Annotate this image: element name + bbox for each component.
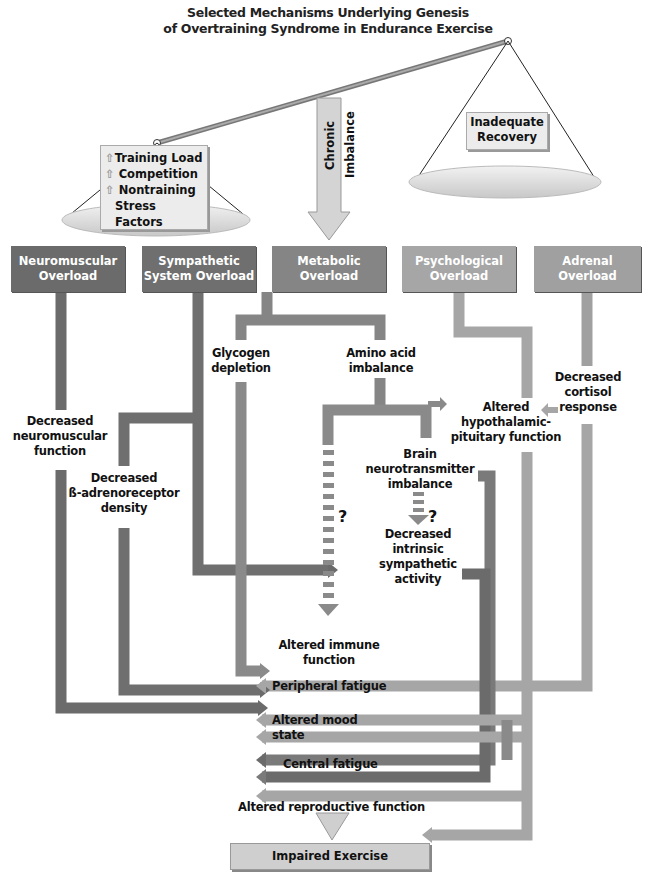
diagram-title: Selected Mechanisms Underlying Genesis o…	[0, 5, 656, 37]
final-outcome-box: Impaired Exercise Performance	[230, 843, 430, 870]
header-neuromuscular: NeuromuscularOverload	[11, 246, 125, 292]
question-mark: ?	[338, 507, 347, 526]
stressor-item: ⇧ Nontraining	[105, 182, 205, 198]
outcome-central-fatigue: Central fatigue	[283, 757, 393, 772]
header-psychological: PsychologicalOverload	[402, 246, 516, 292]
node-beta-receptor: Decreasedß-adrenoreceptordensity	[66, 471, 182, 516]
header-metabolic: MetabolicOverload	[272, 246, 386, 292]
node-amino-acid: Amino acidimbalance	[336, 346, 426, 376]
header-adrenal: AdrenalOverload	[534, 246, 641, 292]
node-hpa: Alteredhypothalamic-pituitary function	[446, 400, 566, 445]
outcome-reproductive: Altered reproductive function	[238, 800, 428, 815]
chronic-imbalance-label: Chronic Imbalance	[320, 90, 340, 200]
stressor-item: ⇧Training Load	[105, 150, 205, 166]
node-neuromuscular-function: Decreasedneuromuscularfunction	[8, 414, 112, 459]
final-arrow	[316, 813, 349, 840]
question-mark: ?	[428, 507, 437, 526]
node-brain-neurotransmitter: Brainneurotransmitterimbalance	[365, 447, 475, 492]
stressor-item: ⇧ Competition	[105, 166, 205, 182]
right-pan-box: Inadequate Recovery	[466, 112, 548, 150]
header-sympathetic: SympatheticSystem Overload	[142, 246, 256, 292]
left-pan-box: ⇧Training Load ⇧ Competition ⇧ Nontraini…	[100, 145, 208, 230]
up-arrow-icon: ⇧	[105, 151, 115, 165]
up-arrow-icon: ⇧	[105, 167, 119, 181]
outcome-peripheral-fatigue: Peripheral fatigue	[272, 679, 392, 694]
node-immune-function: Altered immunefunction	[272, 638, 386, 668]
outcome-mood-state: Altered mood state	[272, 713, 392, 743]
node-intrinsic-sympathetic: Decreasedintrinsicsympatheticactivity	[372, 527, 464, 587]
up-arrow-icon: ⇧	[105, 183, 119, 197]
node-glycogen: Glycogendepletion	[205, 346, 277, 376]
